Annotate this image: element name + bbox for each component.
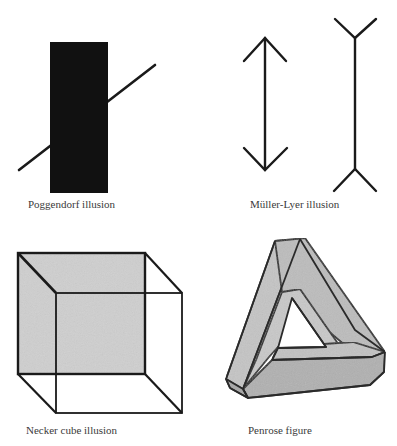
muller-lyer-illusion-drawing [244, 19, 376, 191]
muller-lyer-outward-arrow [244, 38, 287, 170]
poggendorf-illusion-drawing [19, 42, 155, 193]
caption-poggendorf: Poggendorf illusion [28, 198, 115, 210]
penrose-triangle-drawing [226, 238, 385, 398]
necker-cube-drawing [18, 253, 182, 413]
poggendorf-occluding-bar [50, 42, 108, 193]
caption-penrose: Penrose figure [248, 424, 312, 436]
optical-illusions-figure [0, 0, 397, 446]
caption-necker-cube: Necker cube illusion [26, 424, 117, 436]
caption-muller-lyer: Müller-Lyer illusion [250, 198, 339, 210]
necker-cube-shaded-face [18, 253, 145, 374]
muller-lyer-fin-line [334, 19, 376, 191]
